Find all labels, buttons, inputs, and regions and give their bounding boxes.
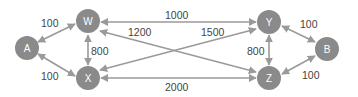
weight-y-b: 100 [300, 18, 318, 30]
node-x: X [76, 66, 100, 90]
weight-x-z: 2000 [165, 81, 189, 93]
edge-x-y [100, 29, 256, 70]
weight-a-w: 100 [41, 17, 59, 29]
weight-w-z: 1200 [128, 26, 152, 38]
edge-w-z [100, 31, 256, 72]
svg-text:B: B [324, 44, 331, 55]
weight-w-x: 800 [91, 45, 109, 57]
node-y: Y [257, 10, 281, 34]
svg-text:A: A [24, 43, 31, 54]
svg-text:X: X [85, 73, 92, 84]
weight-w-y: 1000 [165, 9, 189, 21]
network-graph: 100 100 800 1000 1200 1500 2000 800 100 … [0, 0, 358, 97]
weight-x-y: 1500 [201, 26, 225, 38]
svg-text:Z: Z [266, 73, 272, 84]
weight-a-x: 100 [41, 70, 59, 82]
node-z: Z [257, 66, 281, 90]
node-a: A [15, 36, 39, 60]
node-b: B [315, 37, 339, 61]
weight-z-b: 100 [302, 69, 320, 81]
svg-text:W: W [83, 16, 93, 27]
svg-text:Y: Y [266, 17, 273, 28]
weight-y-z: 800 [247, 45, 265, 57]
node-w: W [76, 9, 100, 33]
